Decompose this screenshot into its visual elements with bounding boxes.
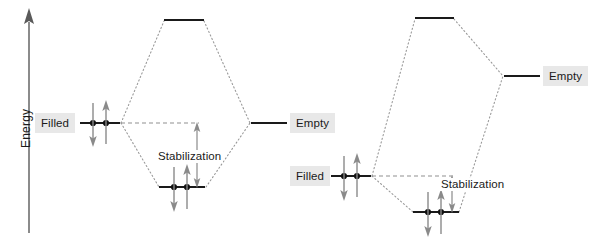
left-corr-antibonding-to-empty xyxy=(204,21,250,123)
energy-axis-label: Energy xyxy=(19,109,33,148)
left-corr-filled-to-antibonding xyxy=(121,21,164,123)
left-corr-filled-to-bonding xyxy=(121,123,159,187)
mo-diagram-figure: Energy Filled Empty Stabilization Filled… xyxy=(0,0,589,247)
spin-down-arrow xyxy=(340,156,347,201)
spin-down-arrow xyxy=(89,103,96,147)
right-corr-filled-to-bonding xyxy=(372,176,413,212)
right-corr-antibonding-to-empty xyxy=(454,19,503,76)
energy-axis-arrowhead xyxy=(24,8,34,24)
right-corr-filled-to-antibonding xyxy=(372,19,415,176)
spin-down-arrow xyxy=(424,192,431,237)
right-stabilization-label: Stabilization xyxy=(439,178,506,191)
right-diagram-group xyxy=(331,18,540,237)
spin-down-arrow xyxy=(170,167,177,212)
left-stabilization-label: Stabilization xyxy=(156,150,223,163)
right-corr-bonding-to-empty xyxy=(459,76,503,212)
right-empty-orbital-label: Empty xyxy=(543,66,588,86)
left-empty-orbital-label: Empty xyxy=(290,113,335,133)
right-filled-orbital-label: Filled xyxy=(290,166,330,186)
left-filled-orbital-label: Filled xyxy=(35,113,75,133)
left-diagram-group xyxy=(80,20,287,212)
